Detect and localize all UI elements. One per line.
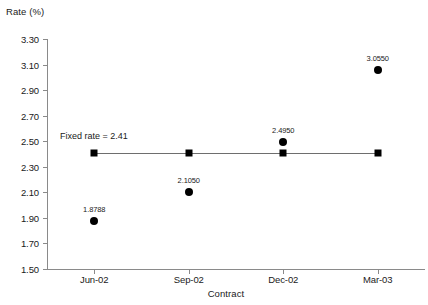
data-point-label: 1.8788 [83,205,105,214]
y-tick-mark [43,116,48,117]
y-axis-title: Rate (%) [6,6,44,17]
y-tick-mark [43,192,48,193]
market-rate-marker [374,66,382,74]
fixed-rate-marker [280,149,287,156]
x-tick-label: Jun-02 [80,274,108,285]
y-tick-label: 2.70 [0,110,39,121]
data-point-label: 2.1050 [178,176,200,185]
y-tick-mark [43,218,48,219]
market-rate-marker [90,217,98,225]
x-axis-title-text: Contract [208,288,245,299]
y-tick-mark [43,65,48,66]
rate-vs-contract-chart: Rate (%) 3.303.102.902.702.502.302.101.9… [0,0,428,305]
fixed-rate-series-line [94,153,378,154]
y-tick-mark [43,90,48,91]
data-point-label: 3.0550 [367,54,389,63]
y-tick-label: 1.50 [0,264,39,275]
fixed-rate-annotation: Fixed rate = 2.41 [60,131,128,141]
y-tick-label: 2.10 [0,187,39,198]
y-tick-label: 3.30 [0,34,39,45]
data-point-label: 2.4950 [272,126,294,135]
fixed-rate-marker [374,149,381,156]
x-axis-title: Contract [0,288,428,299]
y-tick-mark [43,167,48,168]
y-tick-mark [43,243,48,244]
fixed-rate-marker [91,149,98,156]
x-tick-label: Mar-03 [363,274,393,285]
y-tick-label: 2.30 [0,161,39,172]
fixed-rate-marker [185,149,192,156]
y-tick-mark [43,141,48,142]
y-tick-label: 2.90 [0,85,39,96]
x-tick-label: Sep-02 [174,274,204,285]
y-tick-mark [43,39,48,40]
market-rate-marker [185,188,193,196]
y-tick-mark [43,269,48,270]
y-tick-label: 3.10 [0,59,39,70]
x-tick-label: Dec-02 [268,274,298,285]
y-tick-label: 2.50 [0,136,39,147]
y-axis-line [47,39,48,269]
x-axis-line [47,269,425,270]
market-rate-marker [279,138,287,146]
y-tick-label: 1.70 [0,238,39,249]
y-tick-label: 1.90 [0,212,39,223]
